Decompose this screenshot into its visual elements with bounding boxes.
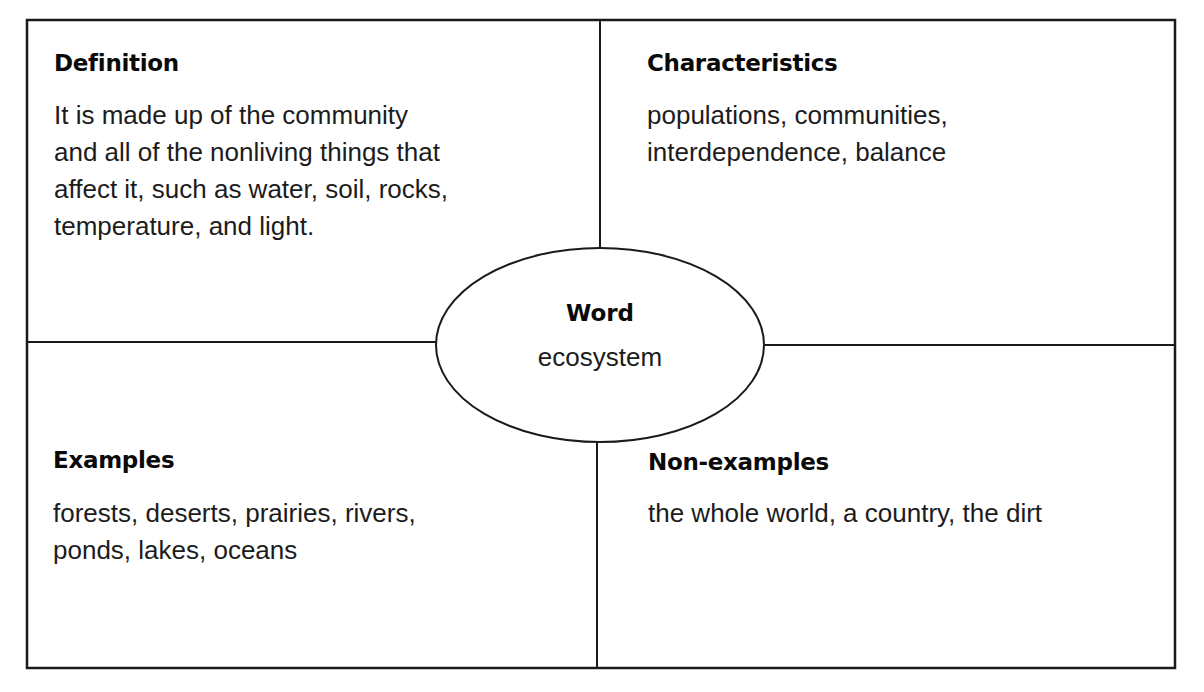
examples-line: forests, deserts, prairies, rivers, <box>53 495 416 532</box>
examples-heading: Examples <box>53 447 174 473</box>
definition-text: It is made up of the community and all o… <box>54 97 448 245</box>
non-examples-line: the whole world, a country, the dirt <box>648 495 1042 532</box>
center-word: Word ecosystem <box>436 300 764 373</box>
word-value: ecosystem <box>436 342 764 373</box>
characteristics-line: populations, communities, <box>647 97 948 134</box>
non-examples-text: the whole world, a country, the dirt <box>648 495 1042 532</box>
definition-line: and all of the nonliving things that <box>54 134 448 171</box>
characteristics-text: populations, communities, interdependenc… <box>647 97 948 171</box>
definition-line: affect it, such as water, soil, rocks, <box>54 171 448 208</box>
definition-line: temperature, and light. <box>54 208 448 245</box>
examples-text: forests, deserts, prairies, rivers, pond… <box>53 495 416 569</box>
characteristics-heading: Characteristics <box>647 50 837 76</box>
characteristics-line: interdependence, balance <box>647 134 948 171</box>
definition-line: It is made up of the community <box>54 97 448 134</box>
examples-line: ponds, lakes, oceans <box>53 532 416 569</box>
word-heading: Word <box>436 300 764 326</box>
definition-heading: Definition <box>54 50 179 76</box>
non-examples-heading: Non-examples <box>648 449 829 475</box>
